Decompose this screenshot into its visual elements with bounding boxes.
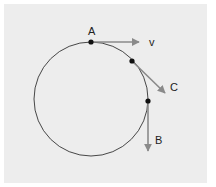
label-a: A [88,25,96,37]
label-v: v [149,36,155,48]
velocity-vector-c [132,61,165,93]
circular-motion-diagram: A v C B [0,0,216,187]
label-b: B [155,134,162,146]
label-c: C [170,81,178,93]
point-b [145,98,150,103]
point-a [88,39,93,44]
point-c [129,58,134,63]
